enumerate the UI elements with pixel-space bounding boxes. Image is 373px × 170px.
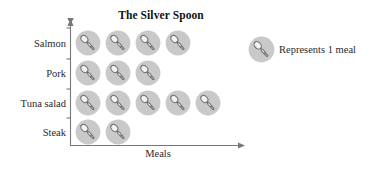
pictograph-row-steak <box>75 119 135 145</box>
spoon-icon <box>105 60 135 86</box>
spoon-icon <box>75 60 105 86</box>
pictograph-row-tuna-salad <box>75 90 225 116</box>
plot-area <box>0 0 373 170</box>
pictograph-row-salmon <box>75 30 195 56</box>
spoon-icon <box>105 119 135 145</box>
spoon-icon <box>248 36 275 63</box>
spoon-icon <box>195 90 225 116</box>
legend-label: Represents 1 meal <box>279 44 356 55</box>
spoon-icon <box>75 90 105 116</box>
spoon-icon <box>165 30 195 56</box>
spoon-icon <box>135 90 165 116</box>
spoon-icon <box>165 90 195 116</box>
spoon-icon <box>135 60 165 86</box>
chart-legend: Represents 1 meal <box>248 36 356 63</box>
pictograph-row-pork <box>75 60 165 86</box>
spoon-icon <box>75 30 105 56</box>
pictograph-chart: The Silver Spoon Salmon Pork Tuna salad … <box>0 0 373 170</box>
spoon-icon <box>135 30 165 56</box>
spoon-icon <box>75 119 105 145</box>
spoon-icon <box>105 90 135 116</box>
x-axis-label: Meals <box>88 148 228 159</box>
spoon-icon <box>105 30 135 56</box>
